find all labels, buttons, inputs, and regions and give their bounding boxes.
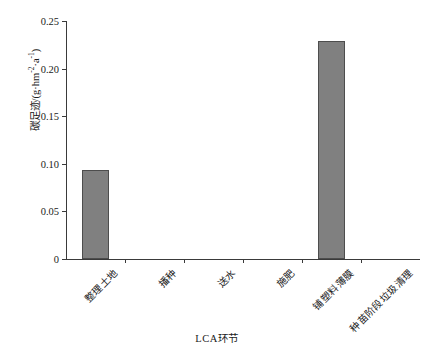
y-tick-mark [62, 164, 66, 165]
y-axis-title-exponent-1: -2 [27, 67, 36, 73]
y-tick-mark [62, 211, 66, 212]
y-axis-title-mid: ·a [30, 58, 41, 66]
y-tick-mark [62, 21, 66, 22]
y-tick-mark [62, 69, 66, 70]
y-tick-label: 0.10 [41, 158, 59, 169]
y-axis-title: 碳足迹/(g·hm-2·a-1) [24, 0, 40, 210]
y-tick-label: 0.20 [41, 63, 59, 74]
y-tick-label: 0.15 [41, 111, 59, 122]
x-axis-title: LCA环节 [0, 330, 434, 345]
x-tick-label-0: 整理土地 [80, 265, 120, 305]
x-tick-label-4: 铺塑料薄膜 [308, 265, 356, 313]
y-axis-title-suffix: ) [30, 49, 41, 53]
y-tick-label: 0.05 [41, 206, 59, 217]
y-tick-label: 0.25 [41, 16, 59, 27]
x-axis-tick-labels: 整理土地播种送水施肥铺塑料薄膜种苗阶段垃圾清理 [66, 265, 420, 335]
x-tick-mark-4 [302, 259, 303, 263]
x-tick-mark-3 [243, 259, 244, 263]
x-tick-label-3: 施肥 [272, 265, 297, 290]
x-tick-mark-2 [184, 259, 185, 263]
y-axis-line [66, 21, 67, 259]
plot-area: 00.050.100.150.200.25 [66, 21, 420, 259]
x-tick-mark-1 [125, 259, 126, 263]
y-axis-title-exponent-2: -1 [27, 52, 36, 58]
x-tick-mark-5 [361, 259, 362, 263]
y-tick-mark [62, 259, 66, 260]
bar-4 [318, 41, 345, 259]
x-tick-label-1: 播种 [154, 265, 179, 290]
y-axis-title-prefix: 碳足迹/(g·hm [30, 73, 41, 132]
bar-chart-figure: 碳足迹/(g·hm-2·a-1) 00.050.100.150.200.25 整… [0, 0, 434, 358]
bar-0 [82, 170, 109, 259]
y-tick-mark [62, 116, 66, 117]
x-tick-label-2: 送水 [213, 265, 238, 290]
y-tick-label: 0 [54, 254, 59, 265]
